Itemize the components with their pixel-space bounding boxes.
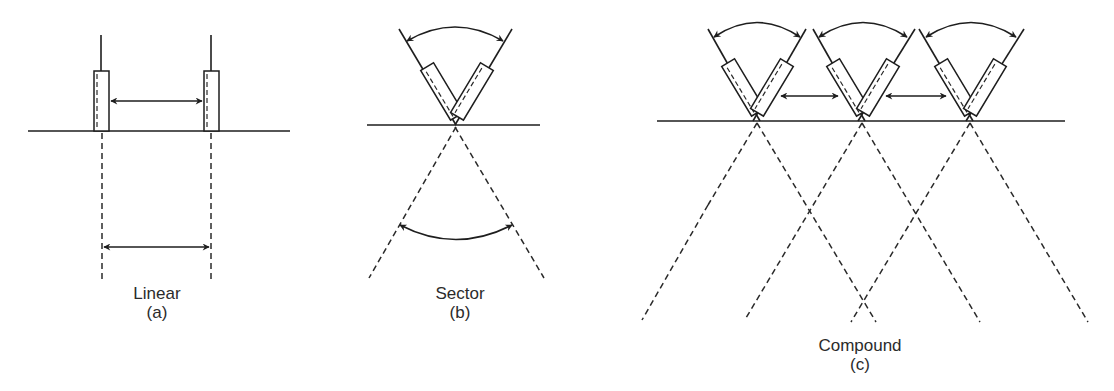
sweep-angle-arrow: [407, 27, 503, 41]
transducer-element: [451, 63, 494, 120]
transducer-element: [94, 71, 109, 131]
transducer-element: [751, 59, 794, 116]
beam-line: [455, 127, 544, 278]
panel-title: Sector: [435, 284, 484, 303]
panel-linear: Linear (a): [28, 35, 290, 322]
beam-line: [862, 123, 980, 322]
panel-caption: (b): [450, 303, 471, 322]
beam-line: [757, 123, 876, 322]
transducer-element: [204, 71, 219, 131]
beam-line: [851, 123, 970, 322]
beam-line: [746, 123, 862, 318]
transducer-element: [964, 59, 1007, 116]
field-angle-arrow: [400, 225, 512, 240]
panel-caption: (c): [850, 355, 870, 374]
scan-types-diagram: Linear (a) Sector (b): [0, 0, 1114, 391]
beam-line: [708, 123, 757, 205]
panel-caption: (a): [147, 303, 168, 322]
panel-title: Linear: [133, 284, 181, 303]
panel-title: Compound: [818, 336, 901, 355]
sweep-angle-arrow: [714, 23, 800, 38]
panel-compound: Compound (c): [642, 23, 1088, 375]
panel-sector: Sector (b): [367, 27, 544, 322]
beam-line: [970, 123, 1088, 322]
sweep-angle-arrow: [926, 23, 1016, 38]
beam-line: [369, 127, 456, 278]
transducer-element: [857, 59, 900, 116]
beam-line: [642, 205, 708, 320]
sweep-angle-arrow: [819, 23, 907, 38]
